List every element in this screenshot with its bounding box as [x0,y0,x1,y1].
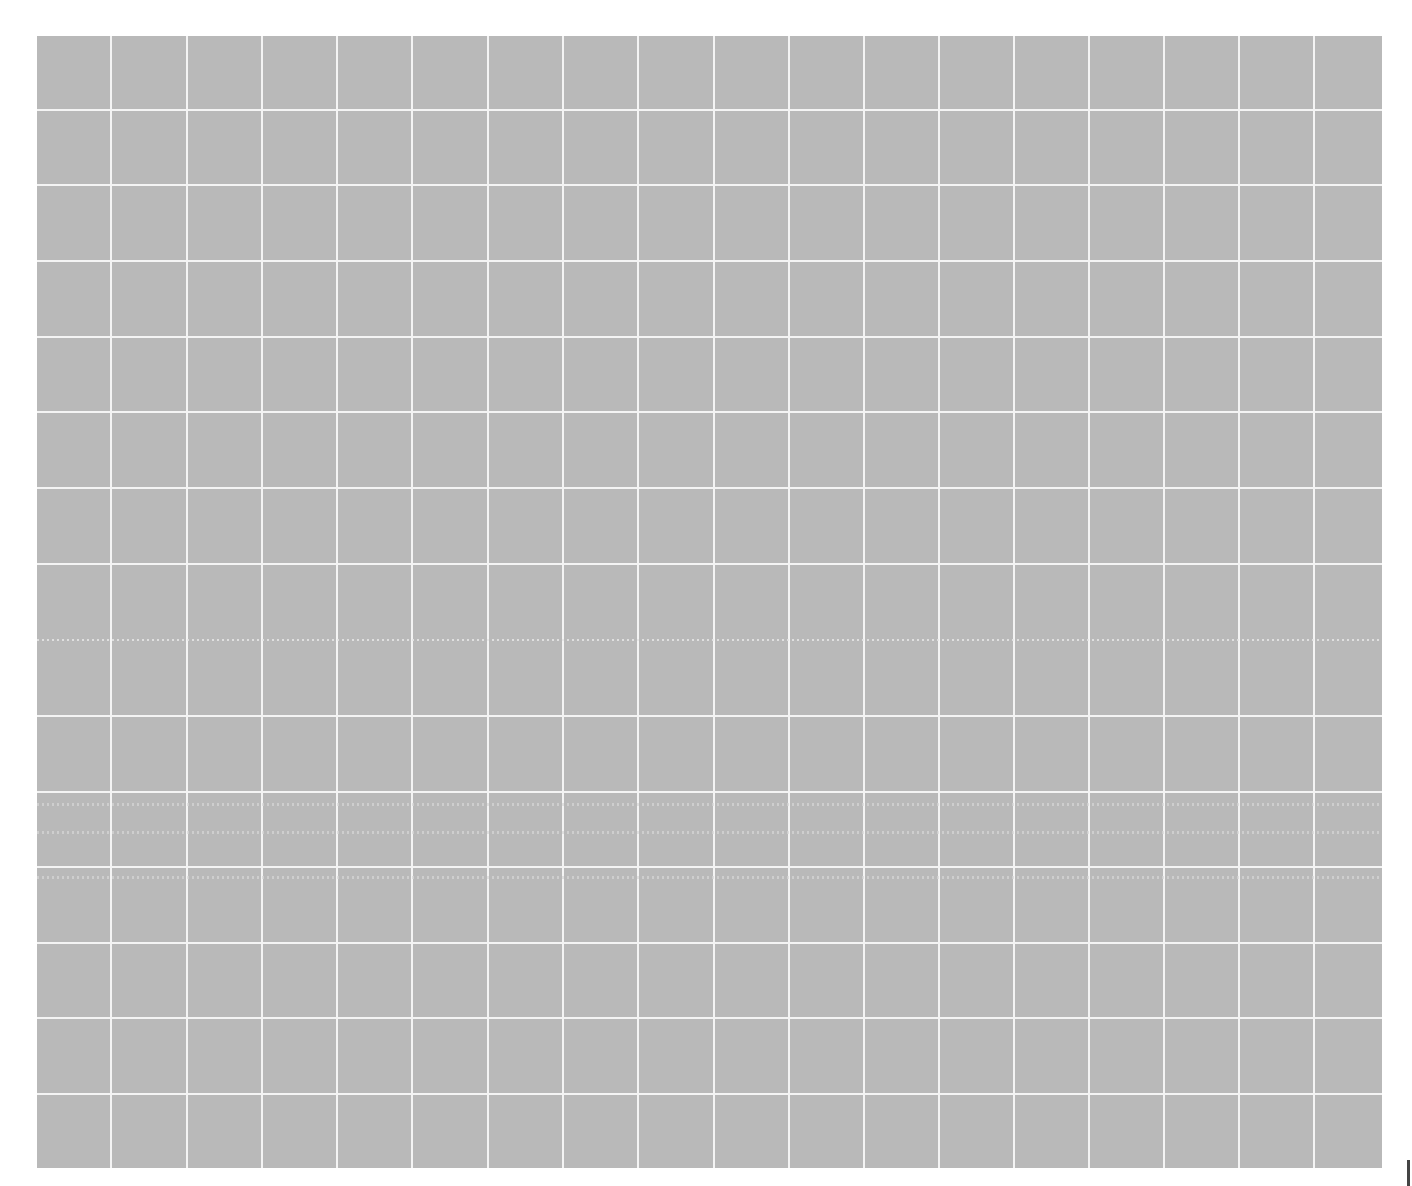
grid-line-vertical [713,36,715,1168]
grid-line-vertical [411,36,413,1168]
grid-line-vertical [788,36,790,1168]
dotted-band [37,639,1382,641]
grid-line-horizontal [37,1017,1382,1019]
grid-line-horizontal [37,866,1382,868]
grid-line-vertical [487,36,489,1168]
grid-line-horizontal [37,715,1382,717]
dotted-band [37,803,1382,806]
grid-line-horizontal [37,336,1382,338]
grid-line-horizontal [37,1093,1382,1095]
grid-line-vertical [1313,36,1315,1168]
grid-line-horizontal [37,942,1382,944]
grid-line-vertical [261,36,263,1168]
grid-line-horizontal [37,109,1382,111]
grid-line-vertical [1238,36,1240,1168]
grid-line-vertical [336,36,338,1168]
grid-line-vertical [186,36,188,1168]
grid-line-vertical [938,36,940,1168]
grid-line-vertical [562,36,564,1168]
edge-mark [1407,1160,1410,1186]
grid-line-horizontal [37,411,1382,413]
dotted-band [37,831,1382,834]
grid-line-horizontal [37,487,1382,489]
grid-line-vertical [863,36,865,1168]
grid-line-vertical [110,36,112,1168]
grid-line-horizontal [37,260,1382,262]
grid-line-horizontal [37,563,1382,565]
grid-line-horizontal [37,791,1382,793]
dotted-band [37,876,1382,879]
grid-line-vertical [1088,36,1090,1168]
gray-grid-area [37,36,1382,1168]
grid-line-vertical [1013,36,1015,1168]
grid-line-vertical [1163,36,1165,1168]
grid-line-horizontal [37,184,1382,186]
grid-line-vertical [637,36,639,1168]
